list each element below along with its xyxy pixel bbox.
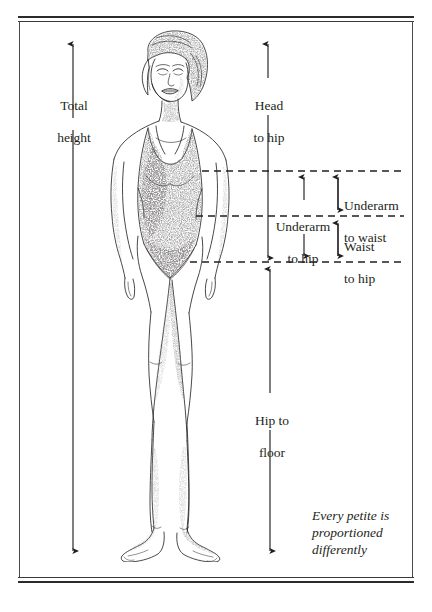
caption-line1: Every petite is xyxy=(312,508,410,525)
label-total-height-line2: height xyxy=(44,130,104,146)
caption-line2: proportioned xyxy=(312,525,410,542)
label-hip-to-floor: Hip to floor xyxy=(244,397,300,477)
label-underarm-to-hip-line1: Underarm xyxy=(272,219,334,235)
label-hip-to-floor-line2: floor xyxy=(244,445,300,461)
frame-top-thick-rule xyxy=(18,16,414,18)
caption-line3: differently xyxy=(312,542,410,559)
label-waist-to-hip-line1: Waist xyxy=(344,239,410,255)
woman-figure-illustration xyxy=(86,26,256,562)
label-underarm-to-waist-line1: Underarm xyxy=(344,198,416,214)
diagram-page: Total height Head to hip Underarm to hip… xyxy=(0,0,432,612)
label-underarm-to-hip-line2: to hip xyxy=(272,251,334,267)
label-head-to-hip-line2: to hip xyxy=(240,130,298,146)
caption-text: Every petite is proportioned differently xyxy=(312,508,410,559)
frame-left-rule xyxy=(19,21,20,578)
label-hip-to-floor-line1: Hip to xyxy=(244,413,300,429)
label-waist-to-hip: Waist to hip xyxy=(344,223,410,303)
label-head-to-hip: Head to hip xyxy=(240,82,298,162)
label-waist-to-hip-line2: to hip xyxy=(344,271,410,287)
label-underarm-to-hip: Underarm to hip xyxy=(272,203,334,283)
label-total-height: Total height xyxy=(44,82,104,162)
label-total-height-line1: Total xyxy=(44,98,104,114)
frame-bottom-thick-rule xyxy=(18,581,414,583)
frame-right-rule xyxy=(412,21,413,578)
frame-bottom-thin-rule xyxy=(18,577,414,578)
label-head-to-hip-line1: Head xyxy=(240,98,298,114)
frame-top-thin-rule xyxy=(18,21,414,22)
